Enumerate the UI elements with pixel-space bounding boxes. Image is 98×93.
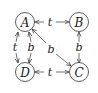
edge-b-c: b — [75, 32, 82, 63]
node-b: B — [70, 13, 89, 32]
edge-a-d-t: t — [13, 32, 18, 63]
edge-d-c: t — [35, 66, 69, 79]
graph-diagram: t t t b b b A B C — [0, 0, 98, 93]
edge-label-a-d-t: t — [13, 41, 18, 54]
edge-label-a-d-b: b — [27, 41, 34, 54]
node-a: A — [16, 13, 35, 32]
edge-label-a-c: b — [47, 43, 54, 56]
node-label-c: C — [74, 66, 83, 80]
node-label-b: B — [74, 16, 84, 30]
edge-a-b: t — [35, 16, 69, 29]
node-label-a: A — [20, 16, 30, 30]
edge-label-d-c: t — [48, 66, 53, 79]
node-d: D — [16, 63, 35, 82]
edge-label-a-b: t — [48, 16, 53, 29]
edge-a-c: b — [32, 29, 71, 66]
node-label-d: D — [19, 66, 30, 80]
edge-a-d-b: b — [27, 32, 34, 63]
node-c: C — [70, 63, 89, 82]
edge-label-b-c: b — [75, 41, 82, 54]
